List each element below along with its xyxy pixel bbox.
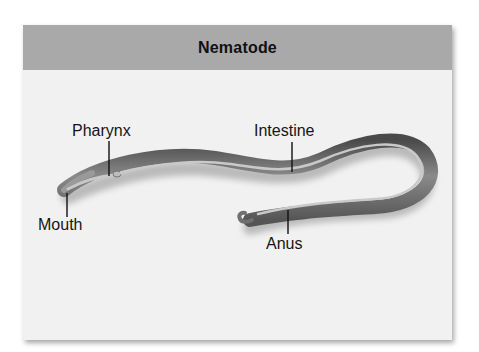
label-anus: Anus: [266, 235, 302, 253]
label-intestine: Intestine: [254, 122, 314, 140]
nematode-illustration: [0, 0, 479, 352]
label-pharynx: Pharynx: [72, 122, 131, 140]
label-mouth: Mouth: [38, 216, 82, 234]
